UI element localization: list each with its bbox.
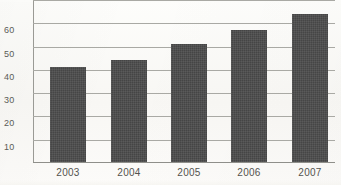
x-tick-label-2005: 2005 (171, 167, 207, 176)
x-tick-label-text: 2007 (292, 167, 328, 176)
y-tick-label-30: 30 (0, 95, 32, 105)
x-tick-label-text: 2004 (111, 167, 147, 176)
plot-area (33, 0, 335, 163)
bar-2007 (292, 14, 328, 162)
y-tick-label-60: 60 (0, 25, 32, 35)
y-tick-label-40: 40 (0, 72, 32, 82)
bar-2004 (111, 60, 147, 162)
y-axis-line (33, 0, 34, 163)
x-axis-line (33, 162, 335, 163)
y-tick-label-20: 20 (0, 118, 32, 128)
y-tick-label-50: 50 (0, 49, 32, 59)
bar-2003 (50, 67, 86, 162)
x-tick-label-text: 2006 (231, 167, 267, 176)
bottom-edge-clip (0, 180, 341, 185)
x-tick-label-2004: 2004 (111, 167, 147, 176)
bar-chart: 70102030405060 20032004200520062007 (0, 0, 341, 185)
bar-2005 (171, 44, 207, 162)
y-tick-label-clipped: 70 (0, 0, 32, 1)
x-tick-label-2007: 2007 (292, 167, 328, 176)
x-tick-label-text: 2003 (50, 167, 86, 176)
y-tick-label-10: 10 (0, 142, 32, 152)
x-tick-label-2003: 2003 (50, 167, 86, 176)
x-tick-label-text: 2005 (171, 167, 207, 176)
x-tick-label-2006: 2006 (231, 167, 267, 176)
gridline-clipped-top (33, 0, 335, 1)
gridline-60 (33, 23, 335, 24)
bar-2006 (231, 30, 267, 162)
